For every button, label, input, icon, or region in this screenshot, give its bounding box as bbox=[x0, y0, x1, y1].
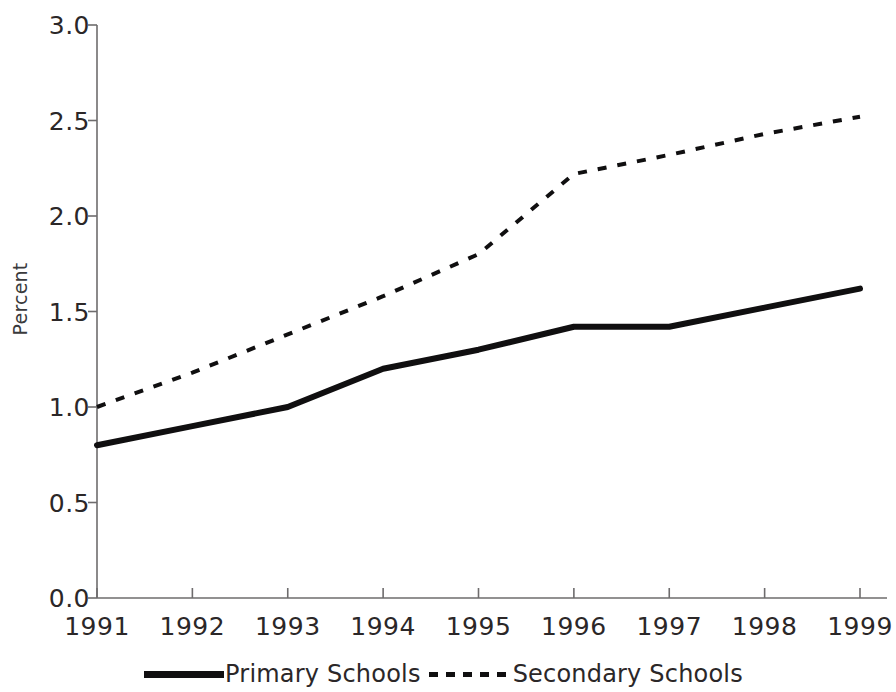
legend-dot-icon bbox=[463, 672, 472, 677]
chart-legend: Primary Schools Secondary Schools bbox=[0, 657, 887, 691]
legend-dot-icon bbox=[497, 672, 506, 677]
legend-dot-icon bbox=[480, 672, 489, 677]
legend-dot-icon bbox=[429, 672, 438, 677]
legend-dotted-line-swatch-icon bbox=[429, 669, 507, 679]
legend-entry-secondary-schools: Secondary Schools bbox=[421, 660, 743, 688]
legend-label-secondary-schools: Secondary Schools bbox=[513, 660, 743, 688]
legend-label-primary-schools: Primary Schools bbox=[225, 660, 421, 688]
legend-solid-line-swatch-icon bbox=[144, 671, 224, 678]
legend-dot-icon bbox=[446, 672, 455, 677]
series-line-secondary-schools bbox=[97, 117, 860, 407]
legend-entry-primary-schools: Primary Schools bbox=[144, 660, 421, 688]
